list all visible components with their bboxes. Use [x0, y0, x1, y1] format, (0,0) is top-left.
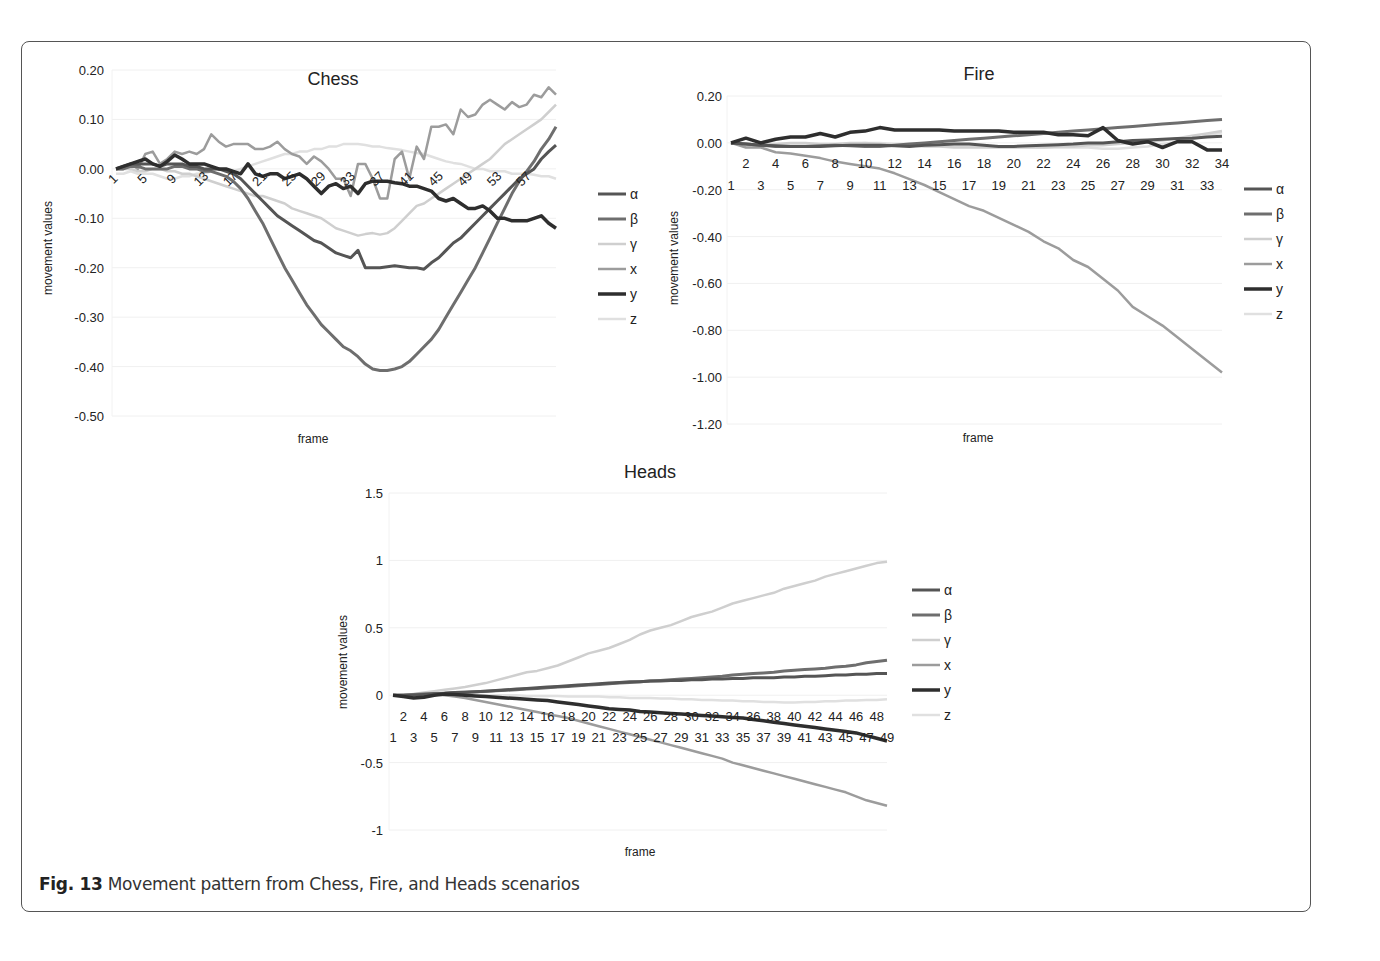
x-tick-label: 2 [400, 709, 407, 724]
x-axis-title: frame [625, 845, 656, 859]
x-tick-label: 25 [633, 730, 647, 745]
x-tick-label: 5 [431, 730, 438, 745]
x-tick-label: 32 [705, 709, 719, 724]
x-tick-label: 30 [684, 709, 698, 724]
x-tick-label: 47 [859, 730, 873, 745]
legend-label-y: y [944, 682, 951, 698]
x-tick-label: 6 [441, 709, 448, 724]
legend-label-γ: γ [944, 632, 951, 648]
x-tick-label: 12 [499, 709, 513, 724]
series-line-α [393, 674, 887, 696]
x-tick-label: 29 [674, 730, 688, 745]
x-tick-label: 18 [561, 709, 575, 724]
x-tick-label: 11 [489, 730, 503, 745]
y-tick-label: 0.5 [365, 621, 383, 636]
x-tick-label: 26 [643, 709, 657, 724]
x-tick-label: 14 [520, 709, 534, 724]
x-tick-label: 39 [777, 730, 791, 745]
legend-label-α: α [944, 582, 952, 598]
x-tick-label: 28 [664, 709, 678, 724]
x-tick-label: 24 [622, 709, 636, 724]
x-tick-label: 41 [797, 730, 811, 745]
x-tick-label: 16 [540, 709, 554, 724]
y-tick-label: 1.5 [365, 486, 383, 501]
x-tick-label: 22 [602, 709, 616, 724]
x-tick-label: 37 [756, 730, 770, 745]
y-tick-label: -1 [371, 823, 383, 838]
x-tick-label: 7 [451, 730, 458, 745]
x-tick-label: 15 [530, 730, 544, 745]
chart-title: Heads [624, 462, 676, 482]
x-tick-label: 33 [715, 730, 729, 745]
x-tick-label: 44 [828, 709, 842, 724]
x-tick-label: 49 [880, 730, 894, 745]
legend: αβγxyz [912, 582, 952, 723]
x-tick-label: 27 [653, 730, 667, 745]
x-tick-label: 20 [581, 709, 595, 724]
y-tick-label: -0.5 [361, 756, 383, 771]
x-tick-label: 17 [550, 730, 564, 745]
x-tick-label: 38 [767, 709, 781, 724]
x-tick-label: 45 [839, 730, 853, 745]
y-tick-label: 0 [376, 688, 383, 703]
x-tick-label: 36 [746, 709, 760, 724]
x-tick-label: 21 [592, 730, 606, 745]
x-tick-label: 48 [869, 709, 883, 724]
x-tick-label: 1 [389, 730, 396, 745]
y-axis-title: movement values [336, 615, 350, 709]
x-tick-label: 31 [695, 730, 709, 745]
x-tick-label: 42 [808, 709, 822, 724]
x-tick-label: 35 [736, 730, 750, 745]
x-tick-label: 13 [509, 730, 523, 745]
figure-caption-text: Movement pattern from Chess, Fire, and H… [108, 874, 580, 894]
x-tick-label: 8 [461, 709, 468, 724]
x-tick-label: 3 [410, 730, 417, 745]
x-tick-label: 9 [472, 730, 479, 745]
x-tick-label: 40 [787, 709, 801, 724]
x-tick-label: 46 [849, 709, 863, 724]
figure-caption-label: Fig. 13 [39, 874, 103, 894]
legend-label-β: β [944, 607, 952, 623]
legend-label-x: x [944, 657, 951, 673]
x-tick-label: 34 [725, 709, 739, 724]
x-tick-label: 19 [571, 730, 585, 745]
x-tick-label: 4 [420, 709, 427, 724]
x-tick-label: 43 [818, 730, 832, 745]
heads-chart: 1.510.50-0.5-124681012141618202224262830… [0, 0, 1380, 961]
figure-caption: Fig. 13 Movement pattern from Chess, Fir… [39, 874, 579, 894]
y-tick-label: 1 [376, 553, 383, 568]
legend-label-z: z [944, 707, 951, 723]
x-tick-label: 23 [612, 730, 626, 745]
x-tick-label: 10 [478, 709, 492, 724]
